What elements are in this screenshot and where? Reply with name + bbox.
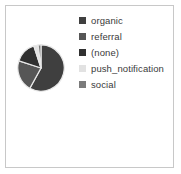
pie-svg: [17, 44, 65, 92]
legend-item-referral[interactable]: referral: [79, 29, 171, 44]
chart-figure: organic referral (none) push_notificatio…: [5, 5, 174, 168]
legend-label-organic: organic: [91, 15, 123, 26]
pie-chart[interactable]: [17, 44, 65, 92]
chart-legend: organic referral (none) push_notificatio…: [79, 13, 171, 93]
legend-label-referral: referral: [91, 31, 122, 42]
legend-swatch-referral: [79, 33, 86, 40]
legend-label-none: (none): [91, 47, 119, 58]
legend-swatch-social: [79, 81, 86, 88]
legend-item-social[interactable]: social: [79, 77, 171, 92]
plot-area: organic referral (none) push_notificatio…: [6, 6, 173, 167]
legend-item-push-notification[interactable]: push_notification: [79, 61, 171, 76]
legend-label-push-notification: push_notification: [91, 63, 164, 74]
legend-swatch-organic: [79, 17, 86, 24]
legend-swatch-none: [79, 49, 86, 56]
legend-label-social: social: [91, 79, 116, 90]
legend-swatch-push-notification: [79, 65, 86, 72]
legend-item-organic[interactable]: organic: [79, 13, 171, 28]
legend-item-none[interactable]: (none): [79, 45, 171, 60]
